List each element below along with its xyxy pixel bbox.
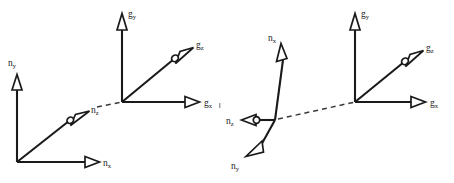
right-n-z-arrow-hub-icon [253,117,259,124]
right-n-frame [242,44,288,157]
label-left-g-y: gy [128,9,137,20]
right-g-y-arrowhead-icon [350,14,360,31]
label-right-n-x: nx [268,33,277,44]
left-g-z-axis-line [122,59,174,102]
right-n-y-arrowhead-icon [246,141,264,157]
label-left-n-x: nx [103,158,112,169]
right-connector-dashed-line [278,102,355,119]
right-g-frame [350,14,426,108]
left-n-x-arrowhead-icon [85,157,100,168]
right-g-z-axis-line [355,62,404,102]
left-g-x-arrowhead-icon [185,97,200,108]
left-g-y-arrowhead-icon [117,14,127,31]
label-left-g-x: gx [204,98,213,109]
label-right-n-y: ny [231,161,240,172]
left-n-z-axis-line [17,121,69,162]
left-panel [12,14,200,168]
left-n-y-arrowhead-icon [12,75,22,91]
label-right-g-y: gy [361,9,370,20]
label-left-g-z: gz [196,40,204,51]
scan-artifact-speck [219,103,220,108]
left-connector-dashed-line [97,102,122,107]
left-g-frame [117,14,200,108]
figure-canvas: nx ny nz gx gy gz nx ny nz gx gy gz [0,0,454,183]
right-g-x-arrowhead-icon [411,97,426,108]
right-n-x-arrowhead-icon [277,44,288,62]
label-right-g-x: gx [430,98,439,109]
label-left-n-y: ny [8,58,17,69]
label-right-g-z: gz [426,43,434,54]
coordinate-frame-figure: nx ny nz gx gy gz nx ny nz gx gy gz [0,0,454,183]
label-right-n-z: nz [226,116,234,127]
right-n-x-axis-line [275,60,283,120]
left-n-frame [12,75,100,168]
